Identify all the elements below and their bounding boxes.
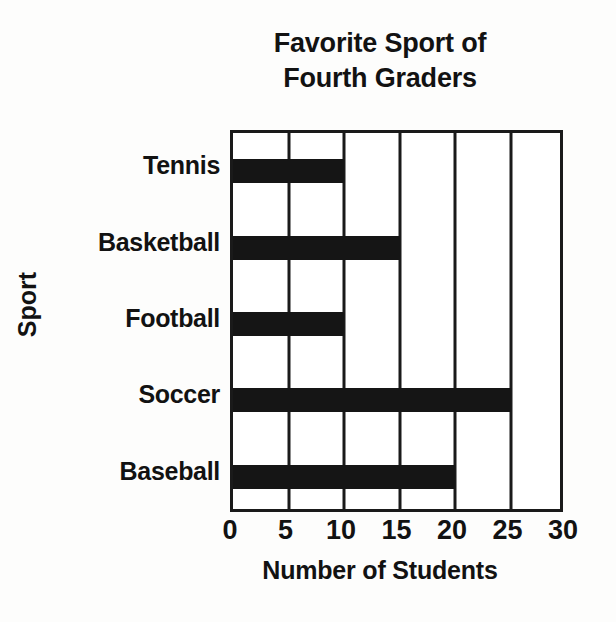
bar-soccer — [233, 388, 511, 412]
x-axis-tick-labels: 051015202530 — [230, 515, 563, 549]
x-tick-label-0: 0 — [200, 515, 260, 546]
bar-football — [233, 312, 344, 336]
y-tick-label-tennis: Tennis — [10, 151, 220, 180]
y-tick-label-baseball: Baseball — [10, 457, 220, 486]
x-tick-label-5: 5 — [256, 515, 316, 546]
bar-tennis — [233, 159, 344, 183]
bar-row — [233, 312, 560, 336]
bar-baseball — [233, 465, 455, 489]
bar-basketball — [233, 236, 400, 260]
x-tick-label-20: 20 — [422, 515, 482, 546]
chart-title: Favorite Sport of Fourth Graders — [190, 26, 570, 95]
x-tick-label-15: 15 — [367, 515, 427, 546]
y-axis-tick-labels: Tennis Basketball Football Soccer Baseba… — [5, 130, 220, 512]
bar-row — [233, 236, 560, 260]
bar-row — [233, 465, 560, 489]
chart-title-line-1: Favorite Sport of — [190, 26, 570, 61]
plot-area — [230, 130, 563, 512]
x-axis-title: Number of Students — [175, 556, 585, 585]
x-tick-label-30: 30 — [533, 515, 593, 546]
y-tick-label-basketball: Basketball — [10, 228, 220, 257]
chart-title-line-2: Fourth Graders — [190, 61, 570, 96]
bar-chart-figure: Favorite Sport of Fourth Graders Sport T… — [0, 0, 616, 622]
x-tick-label-25: 25 — [478, 515, 538, 546]
y-tick-label-football: Football — [10, 304, 220, 333]
bar-row — [233, 388, 560, 412]
y-tick-label-soccer: Soccer — [10, 380, 220, 409]
x-tick-label-10: 10 — [311, 515, 371, 546]
bar-row — [233, 159, 560, 183]
